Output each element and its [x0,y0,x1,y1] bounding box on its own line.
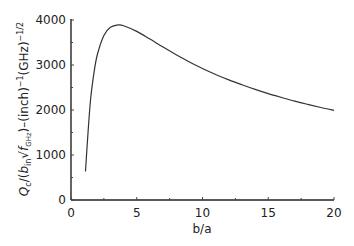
x-tick-label: 0 [67,206,75,220]
x-tick-label: 10 [195,206,210,220]
qc-curve [85,25,334,172]
axes [71,19,334,200]
x-tick-label: 20 [326,206,341,220]
y-tick-label: 1000 [35,148,66,162]
tick-labels: 0510152001000200030004000 [35,13,341,220]
chart: 0510152001000200030004000 b/a Qc/(bin√fG… [0,0,354,246]
x-axis-label: b/a [192,222,211,236]
x-tick-label: 5 [133,206,141,220]
y-tick-label: 4000 [35,13,66,27]
plot-line-qc [85,25,334,172]
y-tick-label: 2000 [35,103,66,117]
ticks [71,20,334,200]
y-tick-label: 0 [58,193,66,207]
y-tick-label: 3000 [35,58,66,72]
y-axis-label: Qc/(bin√fGHz)–(inch)−1(GHz)−1/2 [16,22,33,196]
x-tick-label: 15 [261,206,276,220]
